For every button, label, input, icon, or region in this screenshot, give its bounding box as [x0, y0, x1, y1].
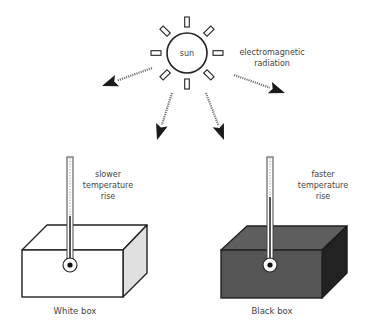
black-box: [221, 226, 347, 298]
arrow-head: [102, 75, 119, 86]
sun-ray: [160, 26, 170, 36]
sun-label: sun: [180, 49, 194, 58]
thermometer-mercury: [269, 197, 271, 260]
arrow-shaft: [162, 93, 172, 125]
radiation-arrow-to-white-box: [156, 93, 172, 140]
sun-ray: [204, 26, 214, 36]
arrow-shaft: [206, 93, 218, 125]
white-box-note-line1: slower: [95, 170, 122, 179]
black-box-note-line2: temperature: [298, 181, 348, 190]
thermometer-bulb-inner: [67, 262, 72, 267]
arrow-head: [213, 123, 224, 140]
radiation-arrows: [102, 68, 285, 140]
thermometer-bulb-inner: [267, 262, 272, 267]
arrow-shaft: [117, 68, 152, 81]
radiation-arrow-left: [102, 68, 152, 86]
sun: sun: [151, 17, 223, 89]
diagram-canvas: sun electromagnetic radiation slower tem…: [0, 0, 365, 331]
white-box-note-line3: rise: [101, 192, 116, 201]
arrow-shaft: [234, 75, 270, 88]
radiation-arrow-right: [234, 75, 285, 93]
black-box-note-line1: faster: [311, 170, 335, 179]
sun-ray: [185, 79, 190, 89]
radiation-label-line1: electromagnetic: [239, 48, 304, 57]
arrow-head: [268, 82, 285, 93]
white-box: [22, 225, 147, 297]
black-box-note-line3: rise: [316, 192, 331, 201]
arrow-head: [156, 123, 168, 140]
sun-ray: [151, 51, 161, 56]
thermometer-mercury: [69, 216, 71, 260]
black-box-caption: Black box: [251, 306, 292, 316]
sun-ray: [204, 70, 214, 80]
sun-ray: [160, 70, 170, 80]
sun-ray: [185, 17, 190, 27]
sun-ray: [213, 51, 223, 56]
radiation-label-line2: radiation: [254, 59, 290, 68]
radiation-arrow-to-black-box: [206, 93, 224, 140]
white-box-note-line2: temperature: [83, 181, 133, 190]
white-box-caption: White box: [54, 306, 97, 316]
